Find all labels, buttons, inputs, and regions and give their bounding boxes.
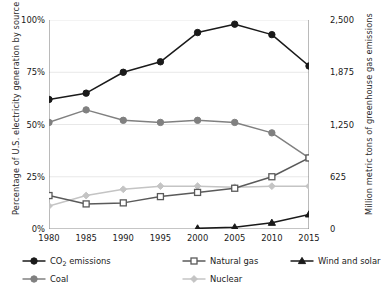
legend-symbol xyxy=(31,258,37,264)
data-point-coal xyxy=(49,119,52,125)
data-point-coal xyxy=(120,117,126,123)
data-point-co2-emissions xyxy=(306,63,309,69)
data-point-co2-emissions xyxy=(194,29,200,35)
data-point-nuclear xyxy=(306,183,309,190)
data-point-nuclear xyxy=(120,186,127,193)
data-point-co2-emissions xyxy=(269,31,275,37)
y-axis-right-tick-labels: 06251,2501,8752,500 xyxy=(330,0,372,296)
data-point-natural-gas xyxy=(157,194,163,200)
data-point-nuclear xyxy=(268,183,275,190)
legend-label-co2-emissions: CO2 emissions xyxy=(50,256,111,266)
x-axis-tick-1990: 1990 xyxy=(113,233,134,243)
data-point-natural-gas xyxy=(195,189,201,195)
y-axis-left-tick-4: 100% xyxy=(21,15,45,25)
data-point-coal xyxy=(157,119,163,125)
series-co2-emissions xyxy=(49,21,309,103)
data-point-natural-gas xyxy=(306,155,309,161)
data-point-nuclear xyxy=(49,203,52,210)
data-point-co2-emissions xyxy=(157,59,163,65)
x-axis-tick-2015: 2015 xyxy=(298,233,319,243)
legend-symbol xyxy=(31,276,37,282)
y-axis-right-tick-3: 1,875 xyxy=(330,67,354,77)
x-axis-tick-2005: 2005 xyxy=(224,233,245,243)
x-axis-tick-labels: 19801985199019952000200520102015 xyxy=(0,233,372,247)
data-point-coal xyxy=(194,117,200,123)
data-point-nuclear xyxy=(157,183,164,190)
legend-item-nuclear[interactable]: Nuclear xyxy=(182,274,242,284)
data-point-wind-and-solar xyxy=(194,225,201,229)
legend-marker-wind-and-solar-icon xyxy=(290,256,314,266)
chart-legend: CO2 emissionsNatural gasWind and solar C… xyxy=(22,256,362,294)
data-point-natural-gas xyxy=(269,174,275,180)
x-axis-tick-1995: 1995 xyxy=(150,233,171,243)
legend-label-nuclear: Nuclear xyxy=(210,274,242,284)
legend-symbol xyxy=(191,258,197,264)
legend-item-coal[interactable]: Coal xyxy=(22,274,68,284)
legend-label-wind-and-solar: Wind and solar xyxy=(318,256,381,266)
legend-marker-natural-gas-icon xyxy=(182,256,206,266)
legend-item-natural-gas[interactable]: Natural gas xyxy=(182,256,258,266)
y-axis-right-tick-1: 625 xyxy=(330,172,346,182)
legend-marker-coal-icon xyxy=(22,274,46,284)
y-axis-right-tick-4: 2,500 xyxy=(330,15,354,25)
y-axis-right-tick-2: 1,250 xyxy=(330,120,354,130)
series-line-wind-and-solar xyxy=(198,214,309,228)
series-wind-and-solar xyxy=(194,211,309,229)
legend-item-wind-and-solar[interactable]: Wind and solar xyxy=(290,256,381,266)
data-point-coal xyxy=(83,107,89,113)
data-point-natural-gas xyxy=(83,201,89,207)
legend-symbol xyxy=(191,276,198,283)
legend-label-natural-gas: Natural gas xyxy=(210,256,258,266)
x-axis-tick-1980: 1980 xyxy=(38,233,59,243)
data-point-co2-emissions xyxy=(120,69,126,75)
y-axis-left-tick-1: 25% xyxy=(26,172,45,182)
data-point-nuclear xyxy=(83,192,90,199)
data-point-co2-emissions xyxy=(49,96,52,102)
x-axis-tick-1985: 1985 xyxy=(75,233,96,243)
data-point-coal xyxy=(269,130,275,136)
data-point-nuclear xyxy=(194,183,201,190)
series-coal xyxy=(49,107,309,161)
legend-marker-co2-emissions-icon xyxy=(22,256,46,266)
legend-marker-nuclear-icon xyxy=(182,274,206,284)
series-natural-gas xyxy=(49,155,309,207)
data-point-co2-emissions xyxy=(232,21,238,27)
x-axis-tick-2010: 2010 xyxy=(261,233,282,243)
y-axis-left-tick-labels: 0%25%50%75%100% xyxy=(0,0,45,296)
data-point-wind-and-solar xyxy=(305,211,309,217)
plot-area xyxy=(49,20,309,229)
data-point-natural-gas xyxy=(120,200,126,206)
x-axis-tick-2000: 2000 xyxy=(187,233,208,243)
data-point-natural-gas xyxy=(49,193,52,199)
data-point-co2-emissions xyxy=(83,90,89,96)
y-axis-left-tick-3: 75% xyxy=(26,67,45,77)
legend-item-co2-emissions[interactable]: CO2 emissions xyxy=(22,256,111,266)
data-point-coal xyxy=(232,119,238,125)
data-point-natural-gas xyxy=(232,185,238,191)
y-axis-left-tick-2: 50% xyxy=(26,120,45,130)
legend-label-coal: Coal xyxy=(50,274,68,284)
